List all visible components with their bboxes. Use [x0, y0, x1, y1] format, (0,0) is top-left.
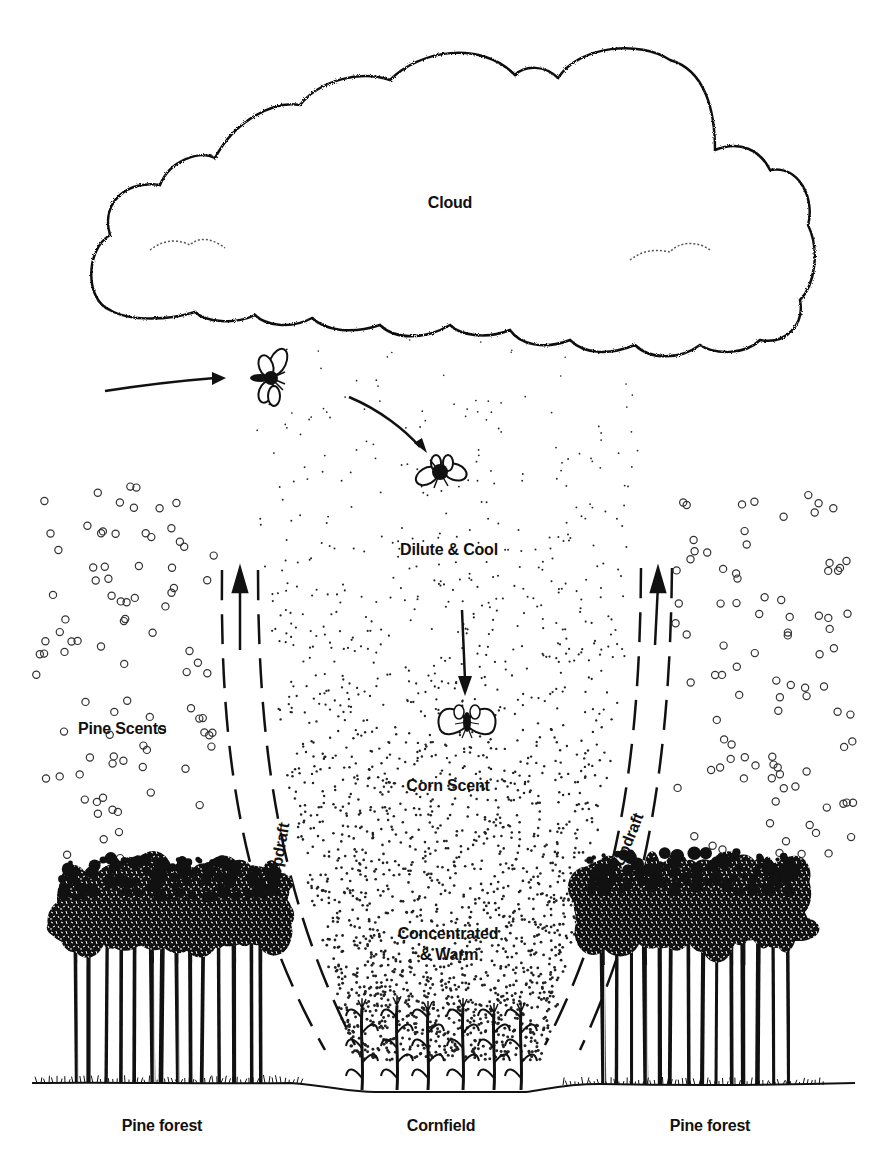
corn-scent-label: Corn Scent — [406, 777, 489, 795]
cornfield-label: Cornfield — [407, 1117, 475, 1135]
dilute-cool-label: Dilute & Cool — [400, 541, 498, 559]
ground-line — [32, 1083, 855, 1092]
cloud-label: Cloud — [428, 194, 472, 212]
arrow-into-plume — [105, 372, 226, 391]
concentrated-label: Concentrated — [398, 925, 499, 943]
pine-forest-right-label: Pine forest — [670, 1117, 751, 1135]
pine-forest-left — [35, 851, 303, 1083]
pine-forest-right — [563, 846, 823, 1085]
warm-label: & Warm — [420, 946, 479, 964]
pine-scents-label: Pine Scents — [78, 720, 167, 738]
pine-forest-left-label: Pine forest — [122, 1117, 203, 1135]
diagram-canvas: Cloud Dilute & Cool Corn Scent Concentra… — [0, 0, 890, 1170]
